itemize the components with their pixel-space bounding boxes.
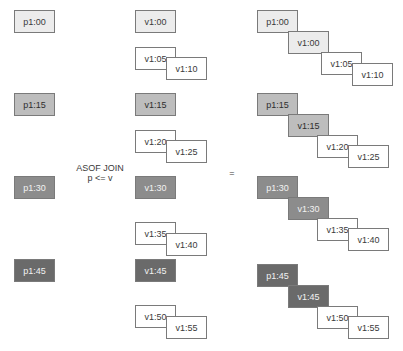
right-row-v1-25: v1:25 [166,140,207,163]
left-row-p1-30: p1:30 [14,176,55,199]
right-row-v1-45: v1:45 [135,259,176,282]
right-row-v1-40: v1:40 [166,233,207,256]
result-p1-30: p1:30 [257,176,298,199]
right-row-v1-30: v1:30 [135,176,176,199]
result-v1-45: v1:45 [288,285,329,308]
right-row-v1-00: v1:00 [135,10,176,33]
right-row-v1-55: v1:55 [166,316,207,339]
result-v1-00: v1:00 [288,31,329,54]
operator-condition: p <= v [68,173,132,183]
result-v1-25: v1:25 [348,145,389,168]
left-row-p1-15: p1:15 [14,93,55,116]
operator-name: ASOF JOIN [68,163,132,173]
result-p1-00: p1:00 [257,10,298,33]
right-row-v1-10: v1:10 [166,57,207,80]
right-row-v1-15: v1:15 [135,93,176,116]
equals-sign: = [226,168,238,178]
result-v1-15: v1:15 [288,114,329,137]
result-v1-40: v1:40 [348,228,389,251]
left-row-p1-00: p1:00 [14,10,55,33]
result-p1-15: p1:15 [257,93,298,116]
result-v1-10: v1:10 [352,63,393,86]
result-v1-30: v1:30 [288,197,329,220]
left-row-p1-45: p1:45 [14,259,55,282]
asof-join-label: ASOF JOIN p <= v [68,163,132,183]
result-v1-55: v1:55 [348,316,389,339]
result-p1-45: p1:45 [257,264,298,287]
